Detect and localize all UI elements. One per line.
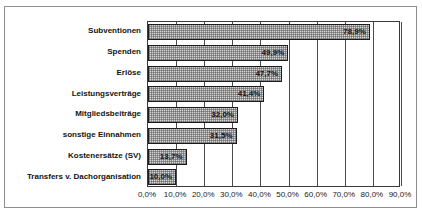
bar-value-label: 31,5% bbox=[210, 132, 233, 140]
bar-row: 32,0% bbox=[148, 105, 399, 126]
bar[interactable]: 32,0% bbox=[148, 107, 238, 123]
bar-value-label: 78,9% bbox=[343, 28, 366, 36]
category-label: sonstige Einnahmen bbox=[63, 125, 141, 146]
gridline-900 bbox=[401, 22, 402, 186]
x-tick-label: 0,0% bbox=[138, 190, 156, 200]
category-label: Subventionen bbox=[88, 21, 141, 42]
bar-row: 41,4% bbox=[148, 84, 399, 105]
bar[interactable]: 41,4% bbox=[148, 86, 264, 102]
bar[interactable]: 47,7% bbox=[148, 66, 282, 82]
bar[interactable]: 49,9% bbox=[148, 45, 288, 61]
x-tick-label: 90,0% bbox=[389, 190, 412, 200]
category-label: Transfers v. Dachorganisation bbox=[27, 166, 141, 187]
x-tick-label: 70,0% bbox=[332, 190, 355, 200]
bar[interactable]: 10,0% bbox=[148, 169, 176, 185]
x-tick-label: 50,0% bbox=[276, 190, 299, 200]
x-axis-tick-labels: 0,0%10,0%20,0%30,0%40,0%50,0%60,0%70,0%8… bbox=[147, 190, 400, 202]
bar-row: 13,7% bbox=[148, 147, 399, 168]
chart-outer-frame: SubventionenSpendenErlöseLeistungsverträ… bbox=[4, 6, 417, 208]
bar-value-label: 41,4% bbox=[238, 90, 261, 98]
category-axis-labels: SubventionenSpendenErlöseLeistungsverträ… bbox=[11, 21, 144, 187]
plot-area: 78,9%49,9%47,7%41,4%32,0%31,5%13,7%10,0% bbox=[147, 21, 400, 187]
category-label: Leistungsverträge bbox=[72, 83, 141, 104]
category-label: Erlöse bbox=[117, 63, 141, 84]
bar-row: 49,9% bbox=[148, 43, 399, 64]
bar-value-label: 10,0% bbox=[149, 173, 172, 181]
bar-value-label: 32,0% bbox=[211, 111, 234, 119]
bar[interactable]: 31,5% bbox=[148, 128, 237, 144]
bar-value-label: 47,7% bbox=[255, 70, 278, 78]
bar-value-label: 13,7% bbox=[160, 153, 183, 161]
x-tick-label: 10,0% bbox=[164, 190, 187, 200]
x-tick-label: 60,0% bbox=[304, 190, 327, 200]
x-tick-label: 30,0% bbox=[220, 190, 243, 200]
bar[interactable]: 13,7% bbox=[148, 149, 187, 165]
bar[interactable]: 78,9% bbox=[148, 24, 370, 40]
bar-row: 78,9% bbox=[148, 22, 399, 43]
x-tick-label: 80,0% bbox=[361, 190, 384, 200]
category-label: Mitgliedsbeiträge bbox=[75, 104, 141, 125]
bar-value-label: 49,9% bbox=[262, 49, 285, 57]
bar-row: 47,7% bbox=[148, 64, 399, 85]
bar-chart-figure: SubventionenSpendenErlöseLeistungsverträ… bbox=[0, 0, 422, 214]
bar-row: 10,0% bbox=[148, 167, 399, 188]
category-label: Spenden bbox=[107, 42, 141, 63]
bar-row: 31,5% bbox=[148, 126, 399, 147]
category-label: Kostenersätze (SV) bbox=[68, 146, 141, 167]
x-tick-label: 40,0% bbox=[248, 190, 271, 200]
bars-layer: 78,9%49,9%47,7%41,4%32,0%31,5%13,7%10,0% bbox=[148, 22, 399, 186]
x-tick-label: 20,0% bbox=[192, 190, 215, 200]
cropped-caption-sliver bbox=[46, 0, 124, 4]
